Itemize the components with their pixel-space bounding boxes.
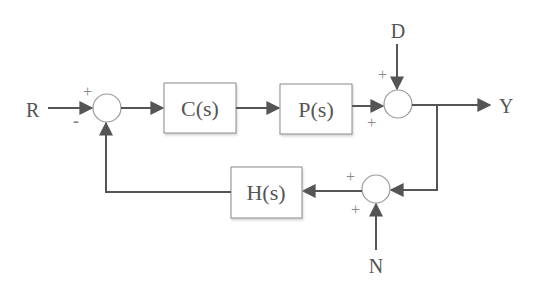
error-junction-minus-sign: - <box>73 111 79 131</box>
disturbance-junction-top-plus-sign: + <box>378 66 387 83</box>
disturbance-junction-bottom-plus-sign: + <box>367 114 376 131</box>
reference-signal-label: R <box>26 99 40 121</box>
sensor-block: H(s) <box>231 167 302 218</box>
noise-summing-junction <box>362 175 390 203</box>
disturbance-signal-label: D <box>391 20 405 42</box>
disturbance-summing-junction <box>384 90 412 118</box>
block-diagram: R + - C(s) P(s) D + + Y <box>0 0 541 288</box>
sensor-label: H(s) <box>246 180 285 205</box>
error-junction-plus-sign: + <box>83 83 92 100</box>
noise-signal-label: N <box>369 255 383 277</box>
noise-junction-bottom-plus-sign: + <box>351 201 360 218</box>
controller-block: C(s) <box>164 83 236 133</box>
output-signal-label: Y <box>499 95 513 117</box>
error-summing-junction <box>93 94 121 122</box>
controller-label: C(s) <box>181 96 219 121</box>
noise-junction-top-plus-sign: + <box>346 168 355 185</box>
plant-label: P(s) <box>298 97 333 122</box>
plant-block: P(s) <box>280 84 352 134</box>
